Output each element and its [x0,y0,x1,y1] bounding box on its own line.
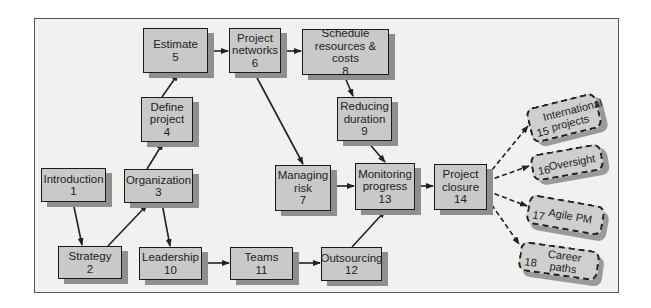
node-strategy: Strategy 2 [58,246,122,279]
node-number: 11 [256,264,268,277]
node-managing-risk: Managing risk 7 [275,165,331,211]
edge-4-5 [162,74,178,97]
edge-2-3 [108,205,147,246]
node-number: 14 [454,193,467,206]
node-number: 8 [342,65,348,78]
node-label-line1: Reducing [340,100,389,113]
edge-14-15 [487,126,528,176]
node-label-line2: closure [442,181,479,194]
node-leadership: Leadership 10 [139,247,202,280]
node-label-line1: Monitoring [358,168,412,181]
node-label-line1: Managing [278,169,329,182]
node-label-line2: networks [232,44,278,57]
edge-14-18 [487,198,519,244]
node-label-line2: resources & costs [303,40,388,65]
node-label: Agile PM [542,205,598,226]
edge-6-7 [255,74,303,164]
node-teams: Teams 11 [230,247,293,280]
node-label-line1: Schedule [322,27,370,40]
node-project-closure: Project closure 14 [434,164,487,210]
node-label: Introduction [43,173,103,186]
node-label: Teams [245,251,279,264]
node-label-line1: Project [237,32,273,45]
node-number: 4 [164,126,170,139]
node-number: 2 [87,263,93,276]
edge-14-17 [487,191,527,206]
node-monitoring-progress: Monitoring progress 13 [355,163,415,210]
node-outsourcing: Outsourcing 12 [321,247,382,281]
node-number: 13 [379,193,392,206]
node-label: Career paths [534,246,595,278]
node-number: 5 [172,51,178,64]
node-introduction: Introduction 1 [41,168,106,202]
node-label: Organization [126,174,191,187]
node-estimate: Estimate 5 [143,28,208,73]
node-label-line2: duration [344,113,386,126]
node-number: 3 [155,186,161,199]
node-label-line2: progress [363,180,408,193]
node-number: 9 [361,125,367,138]
node-number: 10 [164,264,177,277]
node-number: 15 [535,124,550,139]
node-number: 1 [70,185,76,198]
node-number: 16 [537,163,551,177]
edge-1-2 [73,202,82,245]
node-label: Outsourcing [321,252,383,265]
node-project-networks: Project networks 6 [229,28,281,73]
node-organization: Organization 3 [124,169,193,203]
node-label-line2: project [150,113,185,126]
node-label: Oversight [546,151,597,172]
node-label: International projects [542,99,596,134]
node-number: 7 [300,194,306,207]
node-label: Leadership [142,251,199,264]
node-define-project: Define project 4 [141,97,193,142]
edge-8-9 [344,75,353,96]
node-number: 18 [524,255,538,269]
node-number: 17 [532,208,546,222]
node-schedule-resources: Schedule resources & costs 8 [302,29,389,75]
edge-3-4 [147,143,163,169]
edge-9-13 [367,141,385,162]
node-label-line2: risk [294,182,312,195]
edge-3-10 [162,203,170,246]
node-label-line1: Define [150,101,183,114]
node-label: Estimate [153,38,198,51]
node-label: Strategy [69,250,112,263]
node-number: 6 [252,57,258,70]
node-label-line1: Project [443,168,479,181]
edge-12-13 [352,211,385,247]
node-number: 12 [345,264,358,277]
node-reducing-duration: Reducing duration 9 [337,97,392,141]
